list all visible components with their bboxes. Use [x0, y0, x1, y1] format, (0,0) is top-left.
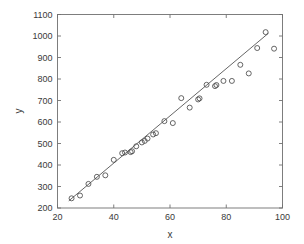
data-point: [179, 96, 184, 101]
y-tick-label: 600: [37, 117, 52, 127]
data-point: [103, 173, 108, 178]
data-point: [111, 157, 116, 162]
y-tick-label: 1100: [33, 10, 52, 20]
data-point: [263, 30, 268, 35]
x-axis-tick-labels: 20406080100: [52, 212, 290, 222]
x-tick-label: 60: [165, 212, 175, 222]
x-tick-label: 20: [52, 212, 62, 222]
data-point: [272, 46, 277, 51]
data-point: [170, 121, 175, 126]
plot-axes: [58, 15, 283, 209]
data-point: [246, 71, 251, 76]
data-point: [197, 96, 202, 101]
y-axis-tick-marks: [58, 15, 283, 209]
figure-container: 20406080100 2003004005006007008009001000…: [0, 0, 304, 244]
y-tick-label: 800: [37, 74, 52, 84]
data-point: [187, 105, 192, 110]
scatter-plot: 20406080100 2003004005006007008009001000…: [0, 0, 304, 244]
y-tick-label: 200: [37, 203, 52, 213]
y-tick-label: 700: [37, 96, 52, 106]
data-point: [78, 193, 83, 198]
y-tick-label: 400: [37, 160, 52, 170]
axes-frame: [58, 15, 283, 209]
data-point: [255, 46, 260, 51]
y-tick-label: 500: [37, 139, 52, 149]
x-tick-label: 100: [275, 212, 290, 222]
y-tick-label: 1000: [32, 31, 52, 41]
data-point: [221, 78, 226, 83]
y-axis-title: y: [13, 109, 24, 114]
data-point: [229, 78, 234, 83]
data-point: [130, 149, 135, 154]
y-axis-tick-labels: 20030040050060070080090010001100: [32, 10, 52, 214]
data-point: [238, 62, 243, 67]
data-point: [214, 83, 219, 88]
x-tick-label: 80: [221, 212, 231, 222]
x-axis-tick-marks: [58, 15, 283, 209]
x-tick-label: 40: [109, 212, 119, 222]
x-axis-title: x: [168, 229, 173, 240]
y-tick-label: 300: [37, 182, 52, 192]
data-point-markers: [69, 30, 277, 201]
y-tick-label: 900: [37, 53, 52, 63]
